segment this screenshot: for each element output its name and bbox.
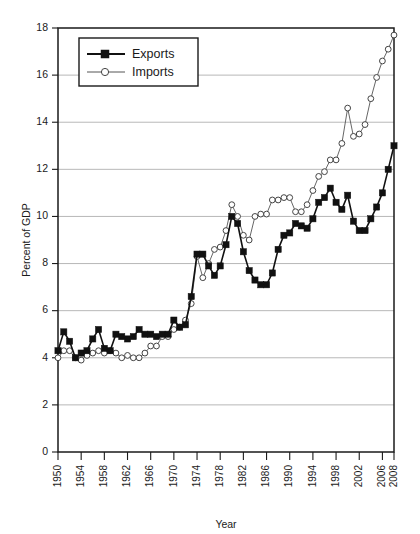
- data-point-exports: [171, 317, 177, 323]
- data-point-exports: [374, 204, 380, 210]
- data-point-imports: [252, 214, 258, 220]
- data-point-imports: [345, 105, 351, 111]
- data-point-imports: [380, 58, 386, 64]
- data-point-imports: [264, 211, 270, 217]
- y-axis-title: Percent of GDP: [20, 203, 32, 277]
- data-point-exports: [142, 331, 148, 337]
- x-tick-label: 1990: [283, 465, 294, 488]
- legend-label-exports: Exports: [132, 47, 174, 61]
- legend-label-imports: Imports: [132, 65, 174, 79]
- data-point-exports: [240, 249, 246, 255]
- x-tick-label: 1970: [168, 465, 179, 488]
- data-point-exports: [61, 329, 67, 335]
- data-point-imports: [269, 197, 275, 203]
- data-point-exports: [182, 322, 188, 328]
- y-tick-label: 12: [36, 162, 48, 174]
- y-tick-label: 0: [42, 445, 48, 457]
- x-tick-label: 1950: [52, 465, 63, 488]
- x-tick-label: 1958: [98, 465, 109, 488]
- data-point-imports: [374, 75, 380, 81]
- data-point-exports: [124, 336, 130, 342]
- data-point-exports: [153, 333, 159, 339]
- data-point-exports: [130, 333, 136, 339]
- data-point-imports: [356, 131, 362, 137]
- x-axis: 1950195419581962196619701974197819821986…: [52, 452, 399, 487]
- data-point-exports: [107, 348, 113, 354]
- data-point-imports: [246, 237, 252, 243]
- chart-figure: 024681012141618 195019541958196219661970…: [0, 0, 420, 534]
- x-tick-label: 1954: [75, 465, 86, 488]
- data-point-exports: [362, 227, 368, 233]
- plot-background: [58, 28, 394, 452]
- data-point-imports: [385, 46, 391, 52]
- data-point-exports: [177, 324, 183, 330]
- data-point-imports: [154, 343, 160, 349]
- data-point-imports: [119, 355, 125, 361]
- data-point-exports: [321, 195, 327, 201]
- data-point-exports: [339, 206, 345, 212]
- data-point-imports: [96, 348, 102, 354]
- data-point-imports: [55, 355, 61, 361]
- data-point-exports: [136, 326, 142, 332]
- y-tick-label: 14: [36, 115, 48, 127]
- legend-marker-imports: [101, 68, 108, 75]
- data-point-exports: [258, 282, 264, 288]
- data-point-exports: [217, 263, 223, 269]
- x-tick-label: 2006: [376, 465, 387, 488]
- y-tick-label: 6: [42, 303, 48, 315]
- x-tick-label: 1998: [330, 465, 341, 488]
- data-point-exports: [165, 331, 171, 337]
- y-tick-label: 16: [36, 68, 48, 80]
- data-point-imports: [258, 211, 264, 217]
- data-point-exports: [206, 263, 212, 269]
- data-point-imports: [322, 169, 328, 175]
- y-tick-label: 2: [42, 398, 48, 410]
- data-point-exports: [252, 277, 258, 283]
- x-tick-label: 1994: [307, 465, 318, 488]
- data-point-imports: [171, 327, 177, 333]
- data-point-imports: [113, 350, 119, 356]
- data-point-exports: [95, 326, 101, 332]
- data-point-exports: [292, 220, 298, 226]
- data-point-imports: [304, 202, 310, 208]
- data-point-exports: [316, 199, 322, 205]
- data-point-imports: [130, 355, 136, 361]
- data-point-imports: [339, 141, 345, 147]
- x-tick-label: 1966: [144, 465, 155, 488]
- data-point-imports: [235, 214, 241, 220]
- data-point-exports: [234, 220, 240, 226]
- data-point-exports: [269, 270, 275, 276]
- y-tick-label: 10: [36, 209, 48, 221]
- data-point-imports: [351, 133, 357, 139]
- data-point-exports: [66, 338, 72, 344]
- data-point-exports: [327, 185, 333, 191]
- data-point-imports: [368, 96, 374, 102]
- data-point-exports: [84, 348, 90, 354]
- x-tick-label: 1978: [214, 465, 225, 488]
- data-point-imports: [142, 350, 148, 356]
- data-point-exports: [356, 227, 362, 233]
- x-tick-label: 1986: [260, 465, 271, 488]
- data-point-exports: [345, 192, 351, 198]
- data-point-exports: [310, 216, 316, 222]
- data-point-exports: [113, 331, 119, 337]
- data-point-imports: [217, 244, 223, 250]
- data-point-imports: [293, 209, 299, 215]
- data-point-imports: [240, 232, 246, 238]
- x-tick-label: 2002: [353, 465, 364, 488]
- data-point-exports: [263, 282, 269, 288]
- data-point-imports: [136, 355, 142, 361]
- data-point-exports: [119, 333, 125, 339]
- data-point-imports: [148, 343, 154, 349]
- x-tick-label: 2008: [388, 465, 399, 488]
- data-point-exports: [385, 166, 391, 172]
- data-point-exports: [333, 199, 339, 205]
- data-point-imports: [362, 122, 368, 128]
- data-point-imports: [287, 195, 293, 201]
- data-point-imports: [212, 247, 218, 253]
- data-point-imports: [229, 202, 235, 208]
- exports-imports-line-chart: 024681012141618 195019541958196219661970…: [0, 0, 420, 534]
- data-point-exports: [298, 223, 304, 229]
- data-point-exports: [350, 218, 356, 224]
- data-point-exports: [72, 355, 78, 361]
